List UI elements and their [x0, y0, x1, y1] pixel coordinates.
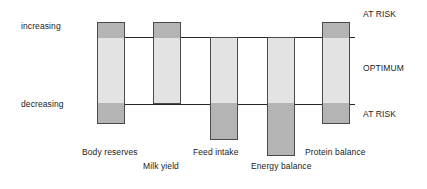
series-label-milk-yield: Milk yield	[143, 162, 179, 171]
series-label-protein-balance: Protein balance	[305, 148, 366, 157]
axis-label-decreasing: decreasing	[21, 100, 64, 109]
bar-feed-intake	[210, 37, 238, 140]
bar-body-reserves	[97, 22, 125, 124]
zone-label-at-risk-low: AT RISK	[363, 110, 396, 119]
zone-label-at-risk-high: AT RISK	[363, 10, 396, 19]
bar-milk-yield	[153, 22, 181, 104]
bar-segment-at-risk-low	[268, 103, 294, 155]
bar-segment-at-risk-high	[154, 23, 180, 38]
series-label-energy-balance: Energy balance	[251, 162, 311, 171]
series-label-feed-intake: Feed intake	[193, 148, 239, 157]
zone-label-optimum: OPTIMUM	[363, 64, 404, 73]
bar-segment-at-risk-high	[323, 23, 349, 38]
bar-segment-at-risk-low	[98, 103, 124, 123]
bar-energy-balance	[267, 37, 295, 156]
bar-segment-at-risk-low	[323, 103, 349, 123]
series-label-body-reserves: Body reserves	[82, 148, 138, 157]
bar-segment-at-risk-low	[211, 103, 237, 139]
nutrition-status-diagram: increasing decreasing AT RISK OPTIMUM AT…	[0, 0, 427, 189]
axis-label-increasing: increasing	[21, 22, 61, 31]
bar-protein-balance	[322, 22, 350, 124]
bar-segment-at-risk-high	[98, 23, 124, 38]
